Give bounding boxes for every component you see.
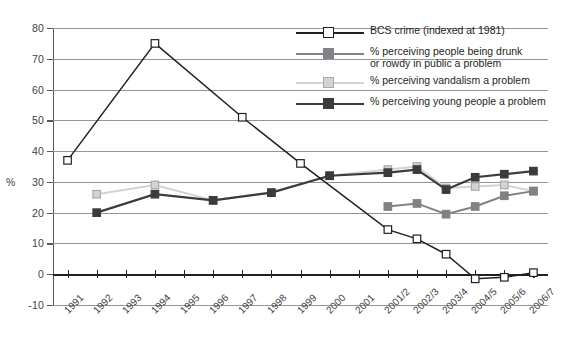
data-point-marker (93, 190, 101, 198)
y-tick-label: 20 (0, 207, 44, 219)
y-tick-label: 60 (0, 84, 44, 96)
data-point-marker (471, 174, 479, 182)
data-point-marker (384, 169, 392, 177)
legend-label: % perceiving young people a problem (364, 95, 546, 107)
legend-key (296, 96, 364, 112)
legend-marker (323, 27, 334, 38)
series-line (97, 170, 534, 213)
y-tick-label: 30 (0, 176, 44, 188)
y-tick-label: 40 (0, 145, 44, 157)
data-point-marker (326, 172, 334, 180)
legend-marker (323, 48, 334, 59)
y-tick-label: 10 (0, 237, 44, 249)
data-point-marker (501, 181, 509, 189)
data-point-marker (530, 187, 538, 195)
data-point-marker (413, 200, 421, 208)
series-line (388, 191, 534, 214)
data-point-marker (151, 181, 159, 189)
data-point-marker (64, 157, 72, 165)
data-point-marker (209, 197, 217, 205)
data-point-marker (530, 167, 538, 175)
data-point-marker (501, 170, 509, 178)
legend-key (296, 25, 364, 41)
chart-legend: BCS crime (indexed at 1981)% perceiving … (296, 24, 554, 116)
data-point-marker (384, 226, 392, 234)
series-1 (384, 187, 537, 218)
data-point-marker (239, 114, 247, 122)
data-point-marker (442, 210, 450, 218)
data-point-marker (384, 203, 392, 211)
y-tick-label: 0 (0, 268, 44, 280)
data-point-marker (442, 250, 450, 258)
y-tick-label: 50 (0, 114, 44, 126)
y-tick-label: 80 (0, 22, 44, 34)
legend-item: BCS crime (indexed at 1981) (296, 24, 554, 41)
legend-key (296, 75, 364, 91)
data-point-marker (151, 40, 159, 48)
y-tick-label: -10 (0, 299, 44, 311)
legend-label: BCS crime (indexed at 1981) (364, 24, 505, 36)
data-point-marker (501, 274, 509, 282)
data-point-marker (151, 190, 159, 198)
data-point-marker (413, 166, 421, 174)
legend-label: % perceiving people being drunkor rowdy … (364, 45, 522, 70)
series-2 (93, 163, 537, 204)
data-point-marker (471, 275, 479, 283)
legend-marker (323, 77, 334, 88)
series-3 (93, 166, 537, 217)
data-point-marker (297, 160, 305, 168)
legend-item: % perceiving people being drunkor rowdy … (296, 45, 554, 70)
data-point-marker (442, 186, 450, 194)
data-point-marker (93, 209, 101, 217)
legend-item: % perceiving young people a problem (296, 95, 554, 112)
legend-marker (323, 98, 334, 109)
line-chart: % 80706050403020100-10 19911992199319941… (0, 0, 564, 364)
legend-label: % perceiving vandalism a problem (364, 74, 530, 86)
legend-key (296, 46, 364, 62)
data-point-marker (413, 235, 421, 243)
data-point-marker (471, 183, 479, 191)
data-point-marker (501, 192, 509, 200)
data-point-marker (268, 189, 276, 197)
data-point-marker (530, 269, 538, 277)
legend-item: % perceiving vandalism a problem (296, 74, 554, 91)
y-tick-mark (47, 305, 53, 306)
data-point-marker (471, 203, 479, 211)
y-tick-label: 70 (0, 53, 44, 65)
